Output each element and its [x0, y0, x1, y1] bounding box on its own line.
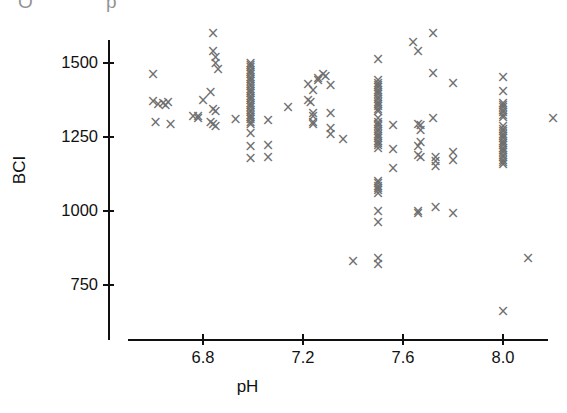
data-point-marker: ×	[497, 106, 510, 119]
data-point-marker: ×	[372, 139, 385, 152]
data-point-marker: ×	[244, 116, 257, 129]
data-point-marker: ×	[387, 143, 400, 156]
data-point-marker: ×	[307, 84, 320, 97]
data-point-marker: ×	[372, 125, 385, 138]
data-point-marker: ×	[497, 128, 510, 141]
data-point-marker: ×	[307, 116, 320, 129]
data-point-marker: ×	[244, 97, 257, 110]
data-point-marker: ×	[244, 99, 257, 112]
data-point-marker: ×	[372, 137, 385, 150]
data-point-marker: ×	[372, 93, 385, 106]
data-point-marker: ×	[447, 154, 460, 167]
data-point-marker: ×	[497, 135, 510, 148]
data-points-layer: ××××××××××××××××××××××××××××××××××××××××…	[0, 0, 567, 413]
data-point-marker: ×	[429, 155, 442, 168]
data-point-marker: ×	[209, 120, 222, 133]
data-point-marker: ×	[372, 123, 385, 136]
data-point-marker: ×	[204, 86, 217, 99]
data-point-marker: ×	[372, 53, 385, 66]
data-point-marker: ×	[372, 116, 385, 129]
data-point-marker: ×	[372, 184, 385, 197]
data-point-marker: ×	[372, 182, 385, 195]
data-point-marker: ×	[372, 135, 385, 148]
data-point-marker: ×	[307, 118, 320, 131]
data-point-marker: ×	[497, 144, 510, 157]
data-point-marker: ×	[244, 66, 257, 79]
data-point-marker: ×	[372, 86, 385, 99]
data-point-marker: ×	[244, 75, 257, 88]
data-point-marker: ×	[244, 61, 257, 74]
data-point-marker: ×	[307, 110, 320, 123]
data-point-marker: ×	[414, 119, 427, 132]
data-point-marker: ×	[372, 175, 385, 188]
data-point-marker: ×	[372, 96, 385, 109]
data-point-marker: ×	[447, 146, 460, 159]
data-point-marker: ×	[497, 123, 510, 136]
data-point-marker: ×	[312, 72, 325, 85]
data-point-marker: ×	[162, 96, 175, 109]
data-point-marker: ×	[372, 177, 385, 190]
data-point-marker: ×	[307, 107, 320, 120]
data-point-marker: ×	[372, 74, 385, 87]
data-point-marker: ×	[244, 106, 257, 119]
data-point-marker: ×	[497, 154, 510, 167]
data-point-marker: ×	[324, 128, 337, 141]
data-point-marker: ×	[372, 187, 385, 200]
data-point-marker: ×	[497, 120, 510, 133]
x-axis-title: pH	[0, 377, 567, 397]
data-point-marker: ×	[497, 156, 510, 169]
data-point-marker: ×	[244, 101, 257, 114]
data-point-marker: ×	[497, 305, 510, 318]
data-point-marker: ×	[429, 201, 442, 214]
data-point-marker: ×	[372, 120, 385, 133]
data-point-marker: ×	[372, 105, 385, 118]
x-axis-title-text: pH	[237, 377, 259, 396]
data-point-marker: ×	[244, 90, 257, 103]
data-point-marker: ×	[262, 114, 275, 127]
data-point-marker: ×	[372, 142, 385, 155]
data-point-marker: ×	[244, 109, 257, 122]
data-point-marker: ×	[497, 130, 510, 143]
data-point-marker: ×	[229, 113, 242, 126]
data-point-marker: ×	[207, 45, 220, 58]
data-point-marker: ×	[207, 103, 220, 116]
data-point-marker: ×	[427, 112, 440, 125]
data-point-marker: ×	[372, 258, 385, 271]
data-point-marker: ×	[312, 74, 325, 87]
data-point-marker: ×	[447, 77, 460, 90]
data-point-marker: ×	[497, 111, 510, 124]
data-point-marker: ×	[244, 94, 257, 107]
data-point-marker: ×	[147, 68, 160, 81]
data-point-marker: ×	[429, 151, 442, 164]
data-point-marker: ×	[372, 205, 385, 218]
data-point-marker: ×	[244, 68, 257, 81]
data-point-marker: ×	[244, 71, 257, 84]
y-axis-title: BCI	[10, 140, 30, 200]
data-point-marker: ×	[497, 139, 510, 152]
data-point-marker: ×	[497, 142, 510, 155]
data-point-marker: ×	[244, 85, 257, 98]
data-point-marker: ×	[407, 36, 420, 49]
data-point-marker: ×	[522, 252, 535, 265]
data-point-marker: ×	[244, 92, 257, 105]
data-point-marker: ×	[152, 98, 165, 111]
data-point-marker: ×	[414, 136, 427, 149]
data-point-marker: ×	[324, 79, 337, 92]
data-point-marker: ×	[412, 118, 425, 131]
data-point-marker: ×	[244, 83, 257, 96]
data-point-marker: ×	[317, 68, 330, 81]
data-point-marker: ×	[282, 101, 295, 114]
data-point-marker: ×	[262, 151, 275, 164]
data-point-marker: ×	[372, 100, 385, 113]
data-point-marker: ×	[372, 132, 385, 145]
data-point-marker: ×	[497, 125, 510, 138]
data-point-marker: ×	[387, 162, 400, 175]
data-point-marker: ×	[497, 101, 510, 114]
data-point-marker: ×	[244, 80, 257, 93]
data-point-marker: ×	[347, 255, 360, 268]
data-point-marker: ×	[212, 63, 225, 76]
data-point-marker: ×	[497, 97, 510, 110]
data-point-marker: ×	[372, 252, 385, 265]
scatter-plot-figure: O p 7501000125015006.87.27.68.0 ××××××××…	[0, 0, 567, 413]
data-point-marker: ×	[324, 107, 337, 120]
